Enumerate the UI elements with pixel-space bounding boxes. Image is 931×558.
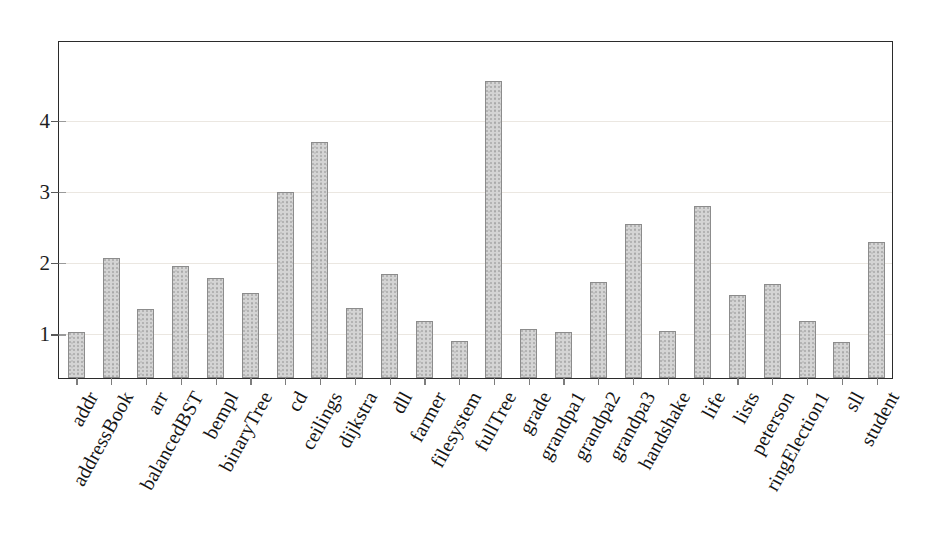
y-tick-label: 3 bbox=[40, 182, 51, 203]
y-tick-mark-inner bbox=[59, 121, 66, 122]
x-tick-mark bbox=[494, 378, 495, 385]
x-axis-labels: addraddressBookarrbalancedBSTbemplbinary… bbox=[58, 388, 893, 553]
bar bbox=[659, 331, 676, 378]
bar bbox=[764, 284, 781, 378]
gridline bbox=[59, 263, 892, 264]
x-tick-label: dll bbox=[387, 388, 415, 416]
bar bbox=[381, 274, 398, 378]
x-tick-mark bbox=[355, 378, 356, 385]
x-tick-mark bbox=[877, 378, 878, 385]
x-tick-mark bbox=[111, 378, 112, 385]
x-tick-label: lists bbox=[730, 388, 763, 426]
x-tick-mark bbox=[216, 378, 217, 385]
x-tick-mark bbox=[250, 378, 251, 385]
bar bbox=[103, 258, 120, 378]
x-tick-mark bbox=[842, 378, 843, 385]
bar bbox=[625, 224, 642, 378]
x-tick-mark bbox=[76, 378, 77, 385]
bar bbox=[555, 332, 572, 378]
x-tick-mark bbox=[633, 378, 634, 385]
gridline bbox=[59, 121, 892, 122]
x-tick-mark bbox=[285, 378, 286, 385]
bar bbox=[172, 266, 189, 378]
bar bbox=[451, 341, 468, 378]
x-tick-mark bbox=[529, 378, 530, 385]
bar bbox=[277, 192, 294, 378]
x-tick-label: addr bbox=[67, 388, 102, 429]
y-tick-mark bbox=[51, 121, 59, 122]
x-tick-mark bbox=[320, 378, 321, 385]
y-tick-mark bbox=[51, 334, 59, 335]
bar bbox=[485, 81, 502, 378]
x-tick-mark bbox=[807, 378, 808, 385]
bar bbox=[137, 309, 154, 378]
x-tick-mark bbox=[459, 378, 460, 385]
bar bbox=[833, 342, 850, 378]
plot-area: 1234 bbox=[58, 41, 893, 379]
bar-chart: 1234 addraddressBookarrbalancedBSTbemplb… bbox=[0, 0, 931, 558]
y-tick-mark-inner bbox=[59, 334, 66, 335]
bar bbox=[694, 206, 711, 378]
x-tick-mark bbox=[181, 378, 182, 385]
x-tick-mark bbox=[598, 378, 599, 385]
y-tick-label: 2 bbox=[40, 253, 51, 274]
y-tick-mark bbox=[51, 263, 59, 264]
x-tick-label: cd bbox=[284, 388, 311, 414]
bar bbox=[590, 282, 607, 378]
x-tick-mark bbox=[563, 378, 564, 385]
x-tick-label: life bbox=[698, 388, 729, 421]
x-tick-mark bbox=[703, 378, 704, 385]
bar bbox=[520, 329, 537, 378]
x-tick-mark bbox=[146, 378, 147, 385]
bar bbox=[416, 321, 433, 378]
x-tick-label: sll bbox=[841, 388, 868, 414]
y-tick-mark-inner bbox=[59, 192, 66, 193]
x-tick-mark bbox=[390, 378, 391, 385]
y-tick-label: 1 bbox=[40, 324, 51, 345]
bar bbox=[242, 293, 259, 378]
x-tick-mark bbox=[424, 378, 425, 385]
bar bbox=[799, 321, 816, 378]
x-tick-mark bbox=[772, 378, 773, 385]
bar bbox=[868, 242, 885, 378]
y-tick-mark bbox=[51, 192, 59, 193]
bar bbox=[68, 332, 85, 378]
x-tick-mark bbox=[668, 378, 669, 385]
bar bbox=[311, 142, 328, 378]
bar bbox=[207, 278, 224, 378]
x-tick-mark bbox=[737, 378, 738, 385]
gridline bbox=[59, 192, 892, 193]
bar bbox=[729, 295, 746, 378]
x-tick-label: arr bbox=[143, 388, 171, 417]
bar bbox=[346, 308, 363, 378]
y-tick-label: 4 bbox=[40, 110, 51, 131]
y-tick-mark-inner bbox=[59, 263, 66, 264]
